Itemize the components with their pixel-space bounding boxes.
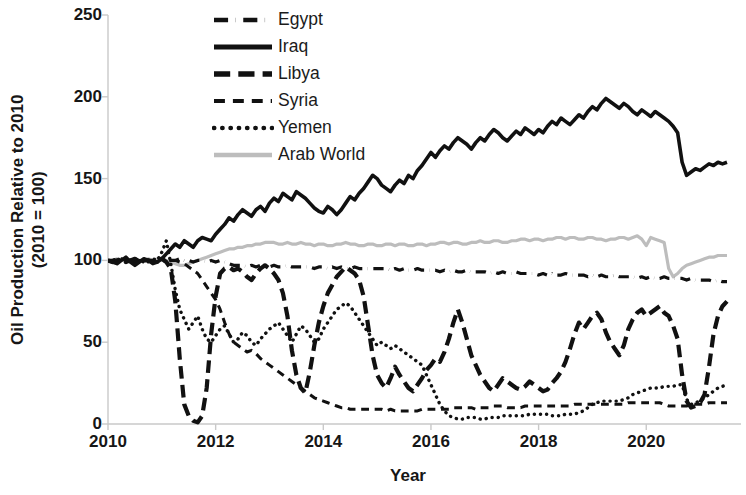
plot-area bbox=[0, 0, 746, 495]
series-line-iraq bbox=[108, 98, 727, 265]
series-line-syria bbox=[108, 259, 727, 411]
oil-production-chart-figure: Oil Production Relative to 2010 (2010 = … bbox=[0, 0, 746, 495]
series-group bbox=[108, 98, 727, 422]
series-line-libya bbox=[108, 259, 727, 423]
series-line-egypt bbox=[108, 259, 727, 282]
series-line-arab-world bbox=[108, 236, 727, 277]
